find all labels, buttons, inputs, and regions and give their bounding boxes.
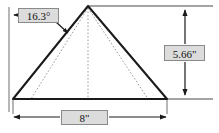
height-dimension-label: 5.66" bbox=[164, 45, 205, 61]
base-dimension-label: 8" bbox=[61, 110, 108, 125]
geometry-figure: 16.3° 5.66" 8" bbox=[0, 0, 219, 133]
angle-dimension-label: 16.3° bbox=[18, 8, 59, 23]
angle-leader-pointer bbox=[56, 22, 68, 33]
hidden-edge-right bbox=[88, 8, 148, 99]
